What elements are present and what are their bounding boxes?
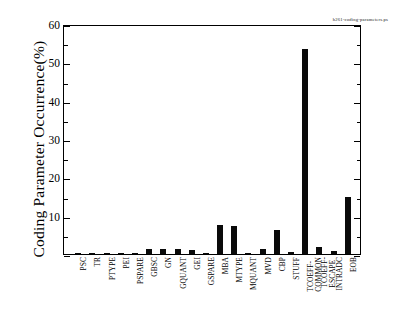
y-tick-minor-right bbox=[357, 160, 361, 161]
bar bbox=[175, 249, 181, 254]
x-tick-label: PSPARE bbox=[137, 257, 145, 284]
bar bbox=[89, 253, 95, 254]
x-tick-label: MQUANT bbox=[250, 257, 258, 290]
x-tick-label: PSC bbox=[80, 257, 88, 270]
y-tick-minor-right bbox=[357, 237, 361, 238]
y-tick-major-right bbox=[354, 64, 360, 65]
x-tick-label: GQUANT bbox=[180, 257, 188, 289]
y-tick-label: 60 bbox=[49, 20, 61, 32]
y-tick-minor-right bbox=[357, 122, 361, 123]
y-tick-minor-right bbox=[357, 84, 361, 85]
bar bbox=[118, 253, 124, 254]
y-tick-major bbox=[64, 64, 70, 65]
y-tick-minor-right bbox=[357, 199, 361, 200]
x-tick-label: TR bbox=[94, 257, 102, 267]
figure-annotation: h261-coding-parameters.ps bbox=[333, 17, 388, 22]
y-tick-major bbox=[64, 26, 70, 27]
bar bbox=[104, 253, 110, 254]
bar bbox=[189, 250, 195, 254]
x-tick-label: GN bbox=[165, 257, 173, 268]
x-tick-label: PEI bbox=[123, 257, 131, 268]
bar bbox=[274, 230, 280, 254]
chart-figure: Coding Parameter Occurrence(%) h261-codi… bbox=[0, 0, 400, 322]
y-tick-major bbox=[64, 179, 70, 180]
x-tick-label: EOB bbox=[350, 257, 358, 272]
y-tick-minor bbox=[64, 160, 68, 161]
y-tick-major bbox=[64, 141, 70, 142]
bar bbox=[260, 249, 266, 254]
bar bbox=[132, 253, 138, 254]
bar bbox=[75, 253, 81, 254]
bar bbox=[288, 252, 294, 254]
bar bbox=[345, 197, 351, 255]
plot-area: 102030405060 bbox=[63, 25, 361, 255]
bar bbox=[217, 225, 223, 254]
bar bbox=[146, 249, 152, 254]
x-tick-label: MVD bbox=[265, 257, 273, 275]
x-tick-label: PTYPE bbox=[109, 257, 117, 280]
y-tick-minor bbox=[64, 45, 68, 46]
y-tick-major-right bbox=[354, 179, 360, 180]
y-tick-label: 20 bbox=[49, 174, 61, 186]
x-axis-tick-labels: PSCTRPTYPEPEIPSPAREGBSCGNGQUANTGEIGSPARE… bbox=[63, 257, 361, 321]
y-tick-minor bbox=[64, 237, 68, 238]
bar bbox=[331, 251, 337, 254]
y-tick-major-right bbox=[354, 103, 360, 104]
x-tick-label: INTRADC bbox=[336, 257, 344, 291]
y-tick-major bbox=[64, 218, 70, 219]
y-tick-major-right bbox=[354, 26, 360, 27]
y-tick-label: 30 bbox=[49, 135, 61, 147]
y-tick-minor bbox=[64, 199, 68, 200]
y-tick-label: 50 bbox=[49, 59, 61, 71]
y-tick-label: 40 bbox=[49, 97, 61, 109]
x-tick-label: GSPARE bbox=[208, 257, 216, 285]
y-tick-major bbox=[64, 103, 70, 104]
x-tick-label: CBP bbox=[279, 257, 287, 271]
y-axis-title: Coding Parameter Occurrence(%) bbox=[30, 24, 48, 274]
y-tick-label: 10 bbox=[49, 212, 61, 224]
bar bbox=[203, 253, 209, 254]
bar bbox=[160, 249, 166, 254]
x-tick-label: GBSC bbox=[151, 257, 159, 277]
y-tick-minor bbox=[64, 122, 68, 123]
y-tick-major-right bbox=[354, 218, 360, 219]
bar bbox=[231, 226, 237, 254]
x-tick-label: MBA bbox=[222, 257, 230, 274]
y-tick-minor-right bbox=[357, 45, 361, 46]
y-tick-major-right bbox=[354, 141, 360, 142]
x-tick-label: MTYPE bbox=[236, 257, 244, 283]
y-tick-minor bbox=[64, 84, 68, 85]
bar-series bbox=[64, 26, 360, 254]
bar bbox=[302, 49, 308, 254]
x-tick-label: GEI bbox=[194, 257, 202, 270]
bar bbox=[245, 253, 251, 254]
bar bbox=[316, 247, 322, 254]
x-tick-label: STUFF bbox=[293, 257, 301, 280]
